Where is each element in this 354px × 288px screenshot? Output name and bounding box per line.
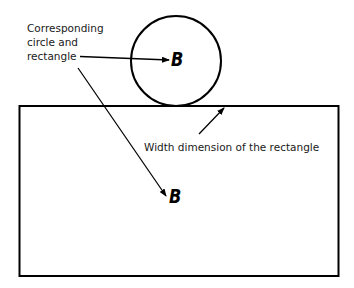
corresponding-label-line-3: rectangle bbox=[27, 49, 104, 63]
diagram-canvas: Corresponding circle and rectangle Width… bbox=[0, 0, 354, 288]
arrow-to-rectangle-width bbox=[199, 108, 224, 134]
circle-letter: B bbox=[171, 50, 183, 69]
corresponding-label: Corresponding circle and rectangle bbox=[27, 21, 104, 63]
corresponding-label-line-2: circle and bbox=[27, 35, 104, 49]
width-dimension-label: Width dimension of the rectangle bbox=[144, 140, 319, 154]
rectangle-letter: B bbox=[169, 187, 181, 206]
corresponding-label-line-1: Corresponding bbox=[27, 21, 104, 35]
